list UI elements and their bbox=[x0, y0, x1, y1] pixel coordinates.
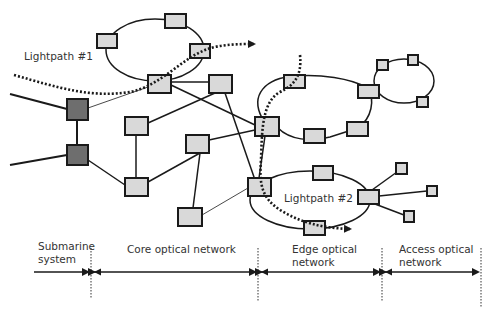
access-spoke-2 bbox=[379, 191, 427, 196]
node[interactable] bbox=[186, 135, 209, 153]
submarine-link-2 bbox=[10, 155, 67, 165]
node[interactable] bbox=[190, 44, 210, 58]
access-spoke-1 bbox=[372, 172, 397, 190]
segment-access-line1: Access optical bbox=[399, 243, 474, 256]
node[interactable] bbox=[209, 75, 232, 93]
core-diag-4 bbox=[148, 153, 200, 182]
core-to-edge bbox=[209, 130, 255, 140]
node[interactable] bbox=[304, 221, 325, 235]
node[interactable] bbox=[347, 122, 368, 136]
node[interactable] bbox=[358, 85, 379, 98]
segment-edge-line2: network bbox=[292, 256, 335, 269]
node-small[interactable] bbox=[396, 163, 407, 174]
nodes bbox=[67, 14, 437, 235]
node[interactable] bbox=[313, 166, 333, 180]
dark-to-core-thin bbox=[88, 87, 148, 108]
dark-to-core-2 bbox=[88, 160, 125, 185]
access-spoke-3 bbox=[375, 204, 404, 215]
lightpath-2-label: Lightpath #2 bbox=[284, 192, 353, 205]
node[interactable] bbox=[284, 75, 305, 88]
node[interactable] bbox=[178, 208, 202, 226]
node-dark-1[interactable] bbox=[67, 99, 88, 120]
node[interactable] bbox=[255, 117, 279, 136]
node-small[interactable] bbox=[427, 186, 437, 196]
segment-submarine-line1: Submarine bbox=[38, 240, 95, 253]
core-v2 bbox=[193, 153, 200, 208]
lightpath-1-label: Lightpath #1 bbox=[24, 50, 93, 63]
node[interactable] bbox=[358, 190, 379, 204]
segment-access-line2: network bbox=[399, 256, 442, 269]
segment-edge-line1: Edge optical bbox=[292, 243, 357, 256]
core-diag-2 bbox=[148, 93, 215, 123]
node[interactable] bbox=[248, 178, 271, 196]
node[interactable] bbox=[97, 34, 117, 48]
core-diag-3 bbox=[225, 93, 255, 180]
node-small[interactable] bbox=[408, 55, 418, 65]
segment-core-label: Core optical network bbox=[127, 243, 236, 256]
node-small[interactable] bbox=[417, 97, 428, 107]
segment-submarine-line2: system bbox=[38, 253, 76, 266]
core-to-edge-thin bbox=[202, 188, 248, 215]
node[interactable] bbox=[125, 178, 148, 196]
node[interactable] bbox=[304, 129, 325, 143]
node[interactable] bbox=[165, 14, 186, 28]
node-dark-2[interactable] bbox=[67, 145, 88, 165]
node-small[interactable] bbox=[404, 211, 414, 222]
node[interactable] bbox=[125, 117, 148, 135]
node-small[interactable] bbox=[377, 60, 388, 70]
submarine-link-1 bbox=[10, 94, 67, 109]
